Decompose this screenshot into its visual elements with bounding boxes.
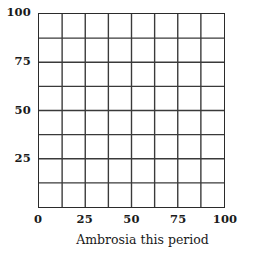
- x-axis-tick-25: 25: [77, 214, 93, 226]
- blank-grid-chart: 100 75 50 25 0 25 50 75 100 Ambrosia thi…: [0, 0, 257, 264]
- plot-area: [38, 13, 225, 208]
- x-axis-tick-50: 50: [123, 214, 139, 226]
- y-axis-tick-75: 75: [15, 56, 31, 68]
- x-axis-title: Ambrosia this period: [0, 234, 257, 247]
- x-axis-tick-0: 0: [34, 214, 42, 226]
- y-axis-tick-50: 50: [15, 105, 31, 117]
- grid-lines: [39, 14, 224, 207]
- y-axis-tick-100: 100: [6, 7, 31, 19]
- x-axis-tick-100: 100: [213, 214, 238, 226]
- x-axis-tick-75: 75: [170, 214, 186, 226]
- y-axis-tick-25: 25: [15, 154, 31, 166]
